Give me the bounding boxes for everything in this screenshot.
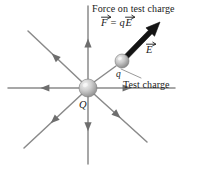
field-line-upper-right — [94, 66, 116, 82]
force-on-test-charge-label: Force on test charge — [92, 4, 175, 14]
test-charge-sphere — [115, 54, 129, 68]
electric-field-vector-label: E — [146, 45, 153, 56]
source-charge-sphere-body — [79, 79, 97, 97]
force-vector-symbol: F — [101, 18, 108, 29]
field-line-arrowhead — [84, 39, 91, 48]
force-equation-label: F=qE — [101, 18, 132, 29]
test-charge-caption-label: Test charge — [123, 80, 170, 90]
leader-line-stroke — [121, 69, 141, 78]
field-line-lower-left — [24, 94, 82, 148]
field-line-arrowhead — [40, 84, 49, 91]
field-line-left — [8, 84, 80, 91]
field-line-lower-right — [94, 94, 147, 142]
source-charge-sphere — [79, 79, 97, 97]
electric-field-diagram: Force on test charge F=qE E q Test charg… — [0, 0, 197, 169]
field-line-arrowhead — [84, 122, 91, 131]
source-charge-symbol-label: Q — [79, 100, 87, 111]
equals-sign: = — [111, 17, 117, 28]
field-line-upper-left — [28, 31, 82, 82]
test-charge-symbol-label: q — [116, 70, 121, 80]
field-line-shaft — [94, 66, 116, 82]
field-vector-symbol-in-equation: E — [125, 18, 132, 29]
test-charge-leader-line — [121, 69, 141, 78]
field-vector-symbol: E — [146, 45, 153, 56]
test-charge-sphere-body — [115, 54, 129, 68]
field-line-up — [84, 6, 91, 80]
